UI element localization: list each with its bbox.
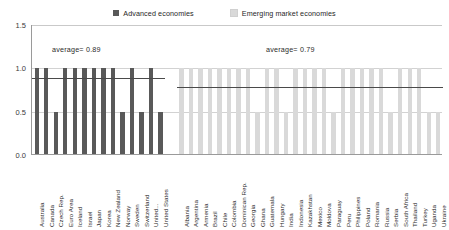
bar: [369, 68, 373, 155]
y-axis-tick-label: 1.0: [16, 64, 26, 73]
x-axis-tick-label: Kazakhstan: [306, 194, 313, 227]
x-axis-tick-label: Indonesia: [297, 200, 304, 227]
x-axis-tick-label: Philippines: [354, 197, 361, 227]
legend-swatch-icon: [230, 9, 238, 17]
y-axis-tick-label: 1.5: [16, 21, 26, 30]
bar: [331, 112, 335, 155]
x-axis-tick-label: Romania: [373, 202, 380, 227]
bar: [198, 68, 202, 155]
x-axis-tick-label: Albania: [183, 206, 190, 227]
bar: [255, 112, 259, 155]
x-axis-tick-label: Serbia: [392, 209, 399, 227]
bar: [293, 68, 297, 155]
x-axis-tick-label: Sweden: [133, 204, 140, 227]
x-axis-tick-label: Norway: [124, 206, 131, 227]
x-axis-tick-label: Ghana: [259, 208, 266, 227]
x-axis-tick-label: Brazil: [211, 211, 218, 227]
bar: [417, 68, 421, 155]
x-axis-tick-label: Israel: [86, 212, 93, 227]
bar: [73, 68, 77, 155]
x-axis-tick-label: Korea: [105, 210, 112, 227]
average-label-advanced: average= 0.89: [52, 45, 101, 54]
legend-item-advanced: Advanced economies: [113, 9, 194, 18]
average-line: [177, 87, 443, 88]
bar: [408, 68, 412, 155]
average-line: [32, 78, 165, 79]
bar: [398, 68, 402, 155]
x-axis-tick-label: Paraguay: [335, 200, 342, 227]
x-axis-tick-label: Hungary: [278, 203, 285, 227]
bar: [217, 68, 221, 155]
bar: [274, 68, 278, 155]
bar: [236, 68, 240, 155]
x-axis-tick-label: Armenia: [202, 204, 209, 227]
x-axis-tick-label: Argentina: [192, 200, 199, 227]
x-axis-tick-label: Uganda: [430, 205, 437, 227]
average-label-emerging: average= 0.79: [266, 45, 315, 54]
x-axis-tick-label: Australia: [38, 202, 45, 227]
bar: [388, 112, 392, 155]
x-axis-tick-label: Guatemala: [268, 196, 275, 227]
bar: [44, 68, 48, 155]
x-axis-tick-label: Colombia: [230, 200, 237, 227]
bar: [312, 68, 316, 155]
x-axis-tick-label: Thailand: [411, 203, 418, 227]
legend-swatch-icon: [113, 10, 119, 16]
bar: [246, 68, 250, 155]
x-axis-tick-label: India: [287, 213, 294, 227]
x-axis-tick-label: South Africa: [402, 193, 409, 227]
x-axis-tick-label: Ukraine: [440, 205, 447, 227]
bar: [341, 68, 345, 155]
bar: [179, 68, 183, 155]
x-axis-tick-label: Canada: [48, 205, 55, 227]
bar: [427, 112, 431, 155]
legend-item-emerging: Emerging market economies: [230, 9, 336, 18]
bar: [82, 68, 86, 155]
bar: [35, 68, 39, 155]
y-axis-tick-label: 0.5: [16, 107, 26, 116]
bar: [284, 112, 288, 155]
legend-label-emerging: Emerging market economies: [242, 9, 336, 18]
bar-chart: Advanced economies Emerging market econo…: [0, 0, 449, 230]
x-axis-labels: AustraliaCanadaCzech Rep.Euro AreaIcelan…: [31, 157, 442, 229]
bar: [120, 112, 124, 155]
bar: [158, 112, 162, 155]
y-axis-tick-label: 0.0: [16, 151, 26, 160]
bar: [189, 68, 193, 155]
x-axis-tick-label: Dominican Rep.: [240, 182, 247, 227]
x-axis-tick-label: Czech Rep.: [57, 194, 64, 227]
x-axis-tick-label: Iceland: [76, 207, 83, 227]
bar: [63, 68, 67, 155]
bar: [101, 68, 105, 155]
bar: [303, 68, 307, 155]
x-axis-tick-label: Mexico: [316, 207, 323, 227]
x-axis-tick-label: Georgia: [249, 205, 256, 227]
bar: [322, 68, 326, 155]
x-axis-tick-label: Euro Area: [67, 199, 74, 227]
legend-label-advanced: Advanced economies: [123, 9, 194, 18]
bar: [436, 112, 440, 155]
x-axis-tick-label: Moldova: [325, 203, 332, 227]
bar: [265, 68, 269, 155]
x-axis-tick-label: United States: [162, 189, 169, 227]
y-axis: 0.00.51.01.5: [0, 25, 28, 155]
chart-legend: Advanced economies Emerging market econo…: [0, 6, 449, 20]
x-axis-tick-label: United...: [152, 204, 159, 228]
bar: [130, 68, 134, 155]
x-axis-tick-label: Japan: [95, 210, 102, 227]
bar: [92, 68, 96, 155]
bar: [54, 112, 58, 155]
x-axis-tick-label: Peru: [345, 214, 352, 227]
x-axis-tick-label: Russia: [383, 208, 390, 227]
bar: [139, 112, 143, 155]
x-axis-tick-label: Switzerland: [143, 194, 150, 227]
bar: [208, 68, 212, 155]
x-axis-tick-label: Chile: [221, 213, 228, 227]
bar: [227, 68, 231, 155]
bar: [379, 68, 383, 155]
x-axis-tick-label: New Zealand: [114, 190, 121, 227]
x-axis-tick-label: Turkey: [421, 208, 428, 227]
bar: [350, 68, 354, 155]
x-axis-tick-label: Poland: [364, 207, 371, 227]
bar: [360, 68, 364, 155]
